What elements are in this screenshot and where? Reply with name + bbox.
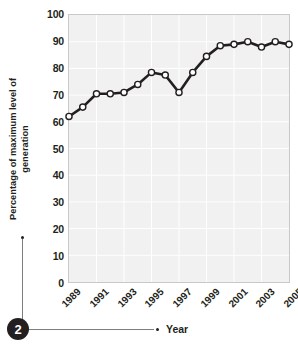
y-axis-tick-label: 50 [53, 143, 64, 155]
x-axis-title-text: Year [166, 323, 188, 335]
x-axis-tick-label: 2001 [226, 286, 250, 310]
x-axis-tick-label: 1991 [87, 286, 111, 310]
y-axis-title-text: Percentage of maximum level of generatio… [7, 24, 31, 274]
x-axis-tick-labels: 198919911993199519971999200120032005 [68, 286, 290, 326]
data-point-marker [176, 89, 182, 95]
data-point-marker [121, 89, 127, 95]
y-axis-tick-label: 100 [47, 8, 64, 20]
data-point-marker [135, 81, 141, 87]
data-point-marker [272, 39, 278, 45]
data-point-marker [107, 91, 113, 97]
data-point-marker [93, 91, 99, 97]
y-axis-tick-label: 10 [53, 250, 64, 262]
data-point-marker [231, 41, 237, 47]
data-series-line [69, 15, 289, 282]
x-axis-tick-label: 2003 [254, 286, 278, 310]
data-point-marker [286, 41, 292, 47]
data-point-marker [217, 43, 223, 49]
y-axis-tick-label: 40 [53, 169, 64, 181]
y-axis-tick-label: 90 [53, 35, 64, 47]
y-axis-tick-labels: 0102030405060708090100 [34, 14, 64, 283]
x-axis-tick-label: 1997 [170, 286, 194, 310]
x-axis-tick-label: 1995 [143, 286, 167, 310]
y-axis-tick-label: 60 [53, 116, 64, 128]
data-point-marker [162, 72, 168, 78]
figure-container: Percentage of maximum level of generatio… [0, 0, 298, 346]
data-point-marker [148, 69, 154, 75]
data-point-marker [80, 104, 86, 110]
y-axis-tick-label: 30 [53, 196, 64, 208]
data-point-marker [203, 53, 209, 59]
x-callout-dot-icon [156, 328, 159, 331]
y-axis-tick-label: 20 [53, 223, 64, 235]
data-point-marker [245, 39, 251, 45]
y-axis-callout [21, 236, 24, 328]
y-axis-tick-label: 0 [58, 277, 64, 289]
x-axis-callout: Year [22, 322, 222, 336]
y-callout-leader-line [22, 239, 23, 328]
y-axis-title: Percentage of maximum level of generatio… [5, 14, 33, 283]
y-axis-tick-label: 80 [53, 62, 64, 74]
data-point-marker [258, 44, 264, 50]
data-point-marker [66, 113, 72, 119]
x-axis-tick-label: 1993 [115, 286, 139, 310]
plot-area [68, 14, 290, 283]
x-callout-leader-line [22, 329, 154, 330]
x-axis-tick-label: 2005 [281, 286, 298, 310]
x-axis-tick-label: 1999 [198, 286, 222, 310]
y-axis-tick-label: 70 [53, 89, 64, 101]
data-point-marker [190, 69, 196, 75]
figure-number-badge: 2 [7, 318, 29, 340]
x-axis-tick-label: 1989 [59, 286, 83, 310]
